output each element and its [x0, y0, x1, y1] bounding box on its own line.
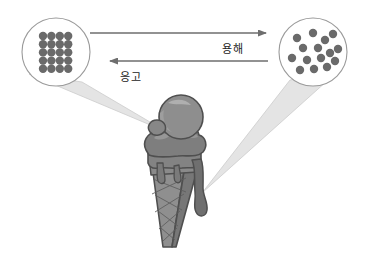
diagram-canvas	[0, 0, 367, 259]
callout-ray-right	[202, 72, 337, 193]
arrow-label-melting: 용해	[222, 40, 243, 56]
scoop-side-bump	[148, 120, 165, 135]
ice-cream-cone-graphic	[145, 95, 208, 247]
state-change-diagram: 용해 응고	[0, 0, 367, 259]
solid-lattice-callout	[22, 18, 90, 86]
liquid-particles-callout	[279, 18, 347, 86]
scoop-upper	[159, 95, 203, 139]
arrow-label-freezing: 응고	[120, 68, 141, 84]
